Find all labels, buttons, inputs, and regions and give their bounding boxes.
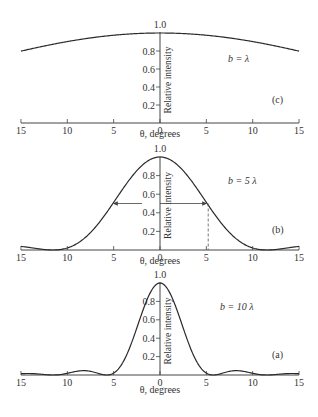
x-tick-label: 10 xyxy=(248,252,258,263)
x-tick-label: 5 xyxy=(111,377,116,388)
y-tick-label: 1.0 xyxy=(154,143,167,154)
parameter-label: b = λ xyxy=(228,53,250,64)
y-tick-label: 0.6 xyxy=(143,189,156,200)
x-tick-label: 10 xyxy=(248,125,258,136)
panel-tag: (b) xyxy=(272,224,284,236)
y-tick-label: 0.2 xyxy=(143,351,156,362)
y-tick-label: 0.6 xyxy=(143,314,156,325)
x-tick-label: 5 xyxy=(111,252,116,263)
x-tick-label: 15 xyxy=(294,125,304,136)
x-axis-title: θ, degrees xyxy=(140,128,180,139)
y-axis-title: Relative intensity xyxy=(163,172,173,239)
x-tick-label: 15 xyxy=(16,125,26,136)
x-axis-title: θ, degrees xyxy=(140,255,180,266)
x-tick-label: 15 xyxy=(16,377,26,388)
x-tick-label: 15 xyxy=(16,252,26,263)
y-tick-label: 0.2 xyxy=(143,100,156,111)
panel-tag: (a) xyxy=(272,349,283,361)
y-axis-title: Relative intensity xyxy=(163,46,173,113)
x-tick-label: 10 xyxy=(62,252,72,263)
y-tick-label: 0.2 xyxy=(143,226,156,237)
y-tick-label: 0.8 xyxy=(143,170,156,181)
x-tick-label: 10 xyxy=(248,377,258,388)
y-tick-label: 0.6 xyxy=(143,64,156,75)
y-tick-label: 1.0 xyxy=(154,19,167,30)
y-axis-title: Relative intensity xyxy=(163,297,173,364)
y-tick-label: 0.4 xyxy=(143,207,156,218)
x-tick-label: 5 xyxy=(204,252,209,263)
y-tick-label: 0.8 xyxy=(143,46,156,57)
x-tick-label: 5 xyxy=(204,125,209,136)
x-tick-label: 5 xyxy=(111,125,116,136)
x-tick-label: 5 xyxy=(204,377,209,388)
x-tick-label: 15 xyxy=(294,252,304,263)
parameter-label: b = 10 λ xyxy=(220,301,254,312)
y-tick-label: 0.4 xyxy=(143,333,156,344)
parameter-label: b = 5 λ xyxy=(228,175,257,186)
x-tick-label: 15 xyxy=(294,377,304,388)
x-tick-label: 10 xyxy=(62,377,72,388)
panel-tag: (c) xyxy=(272,94,283,106)
x-tick-label: 10 xyxy=(62,125,72,136)
y-tick-label: 0.4 xyxy=(143,82,156,93)
x-axis-title: θ, degrees xyxy=(140,384,180,395)
y-tick-label: 1.0 xyxy=(154,269,167,280)
diffraction-figure: 15105051015θ, degrees0.20.40.60.81.0Rela… xyxy=(0,0,318,417)
